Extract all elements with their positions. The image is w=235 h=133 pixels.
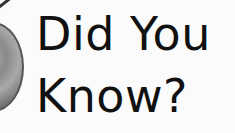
heading-line-1: Did You xyxy=(36,4,211,64)
heading-line-2: Know? xyxy=(36,66,188,126)
